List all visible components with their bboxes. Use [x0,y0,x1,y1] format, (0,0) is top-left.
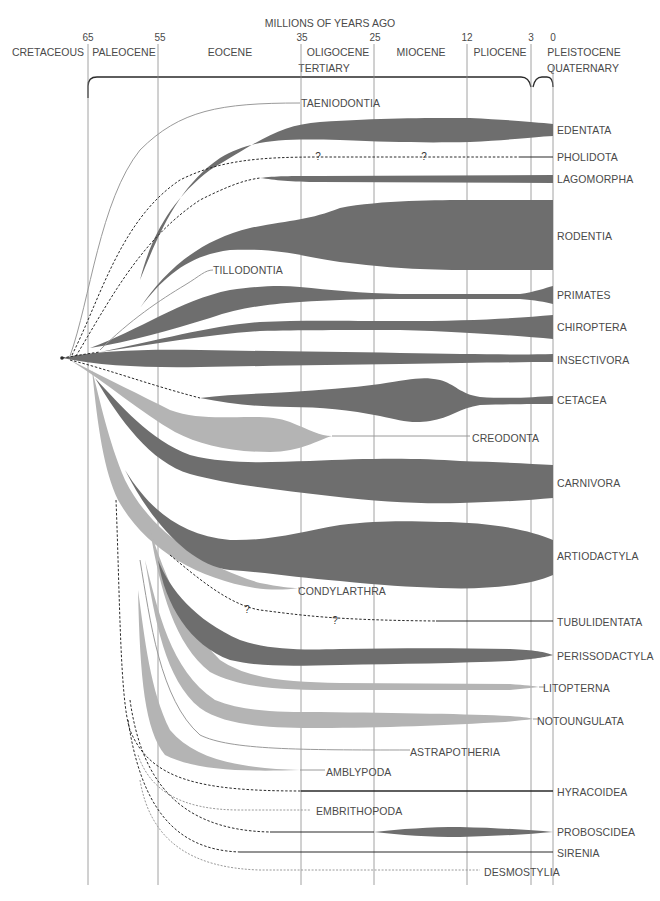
label-notoungulata: NOTOUNGULATA [537,715,624,727]
label-condylarthra: CONDYLARTHRA [298,585,386,597]
label-tillodontia: TILLODONTIA [213,264,283,276]
label-tubulidentata: TUBULIDENTATA [557,616,642,628]
label-embrithopoda: EMBRITHOPODA [316,805,402,817]
epoch-pliocene: PLIOCENE [473,46,526,58]
label-rodentia: RODENTIA [557,230,612,242]
epoch-miocene: MIOCENE [396,46,445,58]
question-mark: ? [315,151,321,162]
label-amblypoda: AMBLYPODA [326,766,391,778]
period-quaternary: QUATERNARY [547,62,619,74]
tick-35: 35 [296,32,308,43]
origin-point [60,356,64,360]
question-mark: ? [421,151,427,162]
epoch-eocene: EOCENE [208,46,252,58]
lineage-cetacea-spindle [200,378,553,422]
label-edentata: EDENTATA [557,124,611,136]
label-astrapotheria: ASTRAPOTHERIA [410,746,500,758]
label-pholidota: PHOLIDOTA [557,151,618,163]
lineage-sirenia-dashed [128,720,240,852]
label-lagomorpha: LAGOMORPHA [557,173,633,185]
label-carnivora: CARNIVORA [557,477,620,489]
label-artiodactyla: ARTIODACTYLA [557,550,639,562]
epoch-paleocene: PALEOCENE [92,46,155,58]
axis-title: MILLIONS OF YEARS AGO [265,17,396,29]
label-cetacea: CETACEA [557,394,607,406]
period-tertiary: TERTIARY [298,62,350,74]
tick-12: 12 [461,32,473,43]
label-chiroptera: CHIROPTERA [557,321,627,333]
label-creodonta: CREODONTA [472,432,539,444]
time-axis-header: MILLIONS OF YEARS AGO 65 55 35 25 12 3 0… [12,17,621,98]
label-taeniodontia: TAENIODONTIA [301,97,380,109]
tertiary-brace [88,77,531,98]
tick-55: 55 [154,32,166,43]
lineage-lagomorpha-spindle [260,175,553,183]
tick-65: 65 [82,32,94,43]
label-desmostylia: DESMOSTYLIA [484,866,560,878]
epoch-pleistocene: PLEISTOCENE [547,46,620,58]
tick-25: 25 [369,32,381,43]
label-perissodactyla: PERISSODACTYLA [557,650,654,662]
lineage-desmostylia-line [140,780,480,870]
tick-3: 3 [528,32,534,43]
label-hyracoidea: HYRACOIDEA [557,786,627,798]
lineage-primates-spindle [90,286,553,348]
label-primates: PRIMATES [557,289,611,301]
lineage-insectivora-spindle [62,350,553,368]
label-insectivora: INSECTIVORA [557,354,629,366]
label-proboscidea: PROBOSCIDEA [557,826,635,838]
tick-0: 0 [550,32,556,43]
label-sirenia: SIRENIA [557,847,600,859]
lineage-proboscidea-spindle [374,827,553,837]
mammal-evolution-diagram: MILLIONS OF YEARS AGO 65 55 35 25 12 3 0… [0,0,660,901]
question-mark: ? [332,615,338,626]
label-litopterna: LITOPTERNA [543,682,610,694]
epoch-oligocene: OLIGOCENE [307,46,369,58]
quaternary-brace [533,77,553,87]
question-mark: ? [244,604,250,615]
epoch-cretaceous: CRETACEOUS [12,46,84,58]
